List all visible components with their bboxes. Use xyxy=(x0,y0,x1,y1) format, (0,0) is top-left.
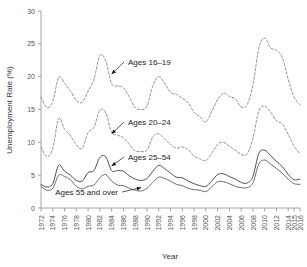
series-annotations: Ages 16–19Ages 20–24Ages 25–54Ages 55 an… xyxy=(55,58,171,197)
annotation-label: Ages 25–54 xyxy=(128,153,171,162)
unemployment-rate-chart: 051015202530 197219741976197819801982198… xyxy=(0,0,307,267)
x-tick-label: 1998 xyxy=(191,215,198,231)
x-tick-label: 1994 xyxy=(167,215,174,231)
chart-plot-area: 051015202530 197219741976197819801982198… xyxy=(0,0,307,267)
x-tick-label: 1974 xyxy=(49,215,56,231)
annotation-arrow-icon xyxy=(137,187,142,191)
x-tick-label: 1972 xyxy=(38,215,45,231)
annotation-label: Ages 20–24 xyxy=(128,118,171,127)
y-tick-label: 25 xyxy=(27,40,35,47)
y-axis-ticks: 051015202530 xyxy=(27,8,41,212)
x-axis-ticks: 1972197419761978198019821984198619881990… xyxy=(38,208,304,231)
x-tick-label: 1980 xyxy=(85,215,92,231)
x-tick-label: 1988 xyxy=(132,215,139,231)
series-line xyxy=(41,38,300,122)
x-tick-label: 2000 xyxy=(202,215,209,231)
annotation-arrow-icon xyxy=(112,162,117,166)
series-annotation: Ages 20–24 xyxy=(112,118,172,134)
x-tick-label: 2010 xyxy=(261,215,268,231)
x-tick-label: 1976 xyxy=(61,215,68,231)
y-tick-label: 0 xyxy=(31,205,35,212)
x-tick-label: 2008 xyxy=(250,215,257,231)
x-tick-label: 2004 xyxy=(226,215,233,231)
y-tick-label: 15 xyxy=(27,106,35,113)
x-tick-label: 1990 xyxy=(144,215,151,231)
x-tick-label: 1986 xyxy=(120,215,127,231)
x-tick-label: 2002 xyxy=(214,215,221,231)
y-tick-label: 20 xyxy=(27,73,35,80)
y-tick-label: 10 xyxy=(27,139,35,146)
series-line xyxy=(41,160,300,192)
annotation-label: Ages 16–19 xyxy=(128,58,171,67)
series-annotation: Ages 25–54 xyxy=(112,153,172,166)
x-tick-label: 2016 xyxy=(297,215,304,231)
x-tick-label: 1978 xyxy=(73,215,80,231)
x-tick-label: 1996 xyxy=(179,215,186,231)
x-tick-label: 1984 xyxy=(108,215,115,231)
annotation-label: Ages 55 and over xyxy=(55,188,118,197)
series-annotation: Ages 16–19 xyxy=(112,58,172,74)
y-tick-label: 30 xyxy=(27,8,35,15)
y-axis-title: Unemployment Rate (%) xyxy=(5,66,14,154)
x-axis-title: Year xyxy=(162,252,179,261)
y-tick-label: 5 xyxy=(31,172,35,179)
x-tick-label: 2006 xyxy=(238,215,245,231)
x-tick-label: 1982 xyxy=(96,215,103,231)
x-tick-label: 1992 xyxy=(155,215,162,231)
x-tick-label: 2012 xyxy=(273,215,280,231)
